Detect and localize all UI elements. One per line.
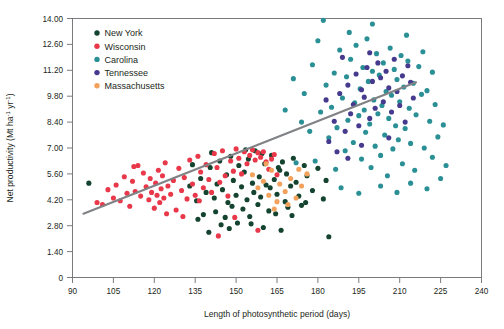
data-point — [198, 176, 203, 181]
data-point — [161, 195, 166, 200]
legend-marker — [94, 70, 99, 75]
data-point — [168, 192, 173, 197]
data-point — [122, 174, 127, 179]
data-point — [412, 168, 417, 173]
y-tick-label: 9.80 — [47, 92, 63, 101]
data-point — [326, 139, 331, 144]
data-point — [332, 71, 337, 76]
data-point — [214, 165, 219, 170]
data-point — [289, 213, 294, 218]
legend-marker — [94, 30, 99, 35]
data-point — [388, 46, 393, 51]
data-point — [367, 50, 372, 55]
data-point — [154, 193, 159, 198]
data-point — [279, 228, 284, 233]
data-point — [348, 111, 353, 116]
data-point — [190, 182, 195, 187]
data-point — [373, 144, 378, 149]
data-point — [219, 222, 224, 227]
data-point — [386, 116, 391, 121]
data-point — [244, 197, 249, 202]
data-point — [234, 146, 239, 151]
data-point — [339, 185, 344, 190]
data-point — [394, 77, 399, 82]
data-point — [347, 30, 352, 35]
data-point — [299, 120, 304, 125]
data-point — [269, 168, 274, 173]
data-point — [384, 69, 389, 74]
data-point — [397, 103, 402, 108]
data-point — [343, 148, 348, 153]
data-point — [420, 49, 425, 54]
data-point — [433, 102, 438, 107]
data-point — [193, 193, 198, 198]
data-point — [258, 194, 263, 199]
data-point — [198, 170, 203, 175]
data-point — [354, 71, 359, 76]
data-point — [190, 162, 195, 167]
data-point — [225, 200, 230, 205]
data-point — [315, 166, 320, 171]
data-point — [373, 106, 378, 111]
data-point — [239, 171, 244, 176]
data-point — [315, 38, 320, 43]
data-point — [291, 156, 296, 161]
legend-marker — [94, 83, 99, 88]
chart-canvas: 01.402.804.205.607.008.409.8011.2012.601… — [0, 0, 504, 329]
data-point — [213, 209, 218, 214]
legend-marker — [94, 57, 99, 62]
data-point — [220, 187, 225, 192]
data-point — [333, 167, 338, 172]
data-point — [266, 208, 271, 213]
data-point — [369, 165, 374, 170]
data-point — [255, 228, 260, 233]
data-point — [197, 198, 202, 203]
data-point — [253, 157, 258, 162]
data-point — [247, 214, 252, 219]
x-tick-label: 225 — [434, 287, 448, 296]
legend-label: Wisconsin — [105, 42, 146, 52]
y-axis-title: Net productivity (Mt ha-1 yr-1) — [5, 93, 15, 202]
data-point — [236, 156, 241, 161]
data-point — [356, 123, 361, 128]
data-point — [156, 168, 161, 173]
data-point — [404, 33, 409, 38]
x-tick-label: 165 — [270, 287, 284, 296]
data-point — [247, 153, 252, 158]
data-point — [255, 185, 260, 190]
data-point — [345, 118, 350, 123]
data-point — [337, 91, 342, 96]
data-point — [367, 121, 372, 126]
data-point — [250, 181, 255, 186]
data-point — [180, 214, 185, 219]
x-tick-label: 135 — [188, 287, 202, 296]
y-tick-label: 2.80 — [47, 222, 63, 231]
data-point — [405, 59, 410, 64]
data-point — [231, 169, 236, 174]
data-point — [378, 153, 383, 158]
data-point — [393, 123, 398, 128]
data-point — [378, 183, 383, 188]
data-point — [285, 202, 290, 207]
data-point — [201, 212, 206, 217]
data-point — [223, 173, 228, 178]
series-tennessee — [324, 50, 416, 161]
data-point — [277, 182, 282, 187]
data-point — [258, 155, 263, 160]
data-point — [195, 217, 200, 222]
x-tick-label: 180 — [311, 287, 325, 296]
data-point — [324, 97, 329, 102]
data-point — [381, 60, 386, 65]
data-point — [229, 204, 234, 209]
data-point — [422, 145, 427, 150]
data-point — [255, 150, 260, 155]
data-point — [340, 55, 345, 60]
data-point — [414, 112, 419, 117]
data-point — [334, 149, 339, 154]
data-point — [386, 85, 391, 90]
data-point — [362, 108, 367, 113]
data-point — [430, 155, 435, 160]
x-axis-title: Length of photosynthetic period (days) — [204, 309, 350, 319]
data-point — [273, 211, 278, 216]
data-point — [392, 67, 397, 72]
